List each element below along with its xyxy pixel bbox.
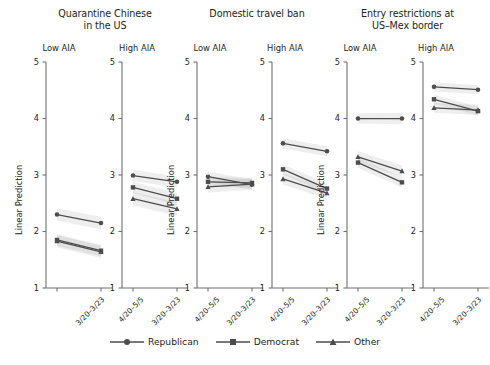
marker-square-icon (356, 160, 360, 164)
marker-square-icon (281, 167, 285, 171)
legend-label-democrat: Democrat (254, 336, 299, 347)
y-tick-label: 5 (101, 57, 115, 67)
marker-circle-icon (281, 141, 286, 146)
y-tick-label: 3 (402, 170, 416, 180)
panel-title-5: High AIA (403, 43, 469, 53)
y-tick-label: 2 (25, 226, 39, 236)
y-tick-label: 5 (176, 57, 190, 67)
y-tick-label: 3 (251, 170, 265, 180)
y-tick-label: 4 (101, 113, 115, 123)
panel-title-0: Low AIA (26, 43, 92, 53)
group-title-line2: US–Mex border (330, 20, 485, 32)
y-tick-label: 5 (326, 57, 340, 67)
y-tick-label: 3 (101, 170, 115, 180)
marker-circle-icon (476, 87, 481, 92)
legend-marker-triangle-icon (316, 337, 350, 347)
legend-item-republican: Republican (110, 336, 199, 347)
y-tick-label: 2 (101, 226, 115, 236)
y-axis-label-0: Linear Prediction (14, 165, 24, 235)
legend-label-other: Other (354, 336, 380, 347)
legend-item-other: Other (316, 336, 380, 347)
group-title-line1: Quarantine Chinese (30, 8, 180, 20)
group-title-domestic: Domestic travel ban (182, 8, 332, 20)
legend-marker-circle-icon (110, 337, 144, 347)
y-tick-label: 2 (176, 226, 190, 236)
y-tick-label: 5 (402, 57, 416, 67)
y-tick-label: 1 (101, 283, 115, 293)
panel-title-2: Low AIA (177, 43, 243, 53)
legend-label-republican: Republican (148, 336, 199, 347)
y-tick-label: 4 (251, 113, 265, 123)
panel-title-4: Low AIA (327, 43, 393, 53)
group-title-line1: Domestic travel ban (182, 8, 332, 20)
y-tick-label: 1 (176, 283, 190, 293)
legend-item-democrat: Democrat (216, 336, 299, 347)
y-tick-label: 3 (326, 170, 340, 180)
group-title-entry: Entry restrictions at US–Mex border (330, 8, 485, 31)
y-tick-label: 2 (326, 226, 340, 236)
marker-circle-icon (432, 85, 437, 90)
group-title-line2: in the US (30, 20, 180, 32)
y-tick-label: 4 (326, 113, 340, 123)
panel-title-3: High AIA (252, 43, 318, 53)
figure-canvas: Quarantine Chinese in the US Domestic tr… (0, 0, 490, 365)
y-tick-label: 3 (176, 170, 190, 180)
y-tick-label: 5 (251, 57, 265, 67)
y-tick-label: 1 (251, 283, 265, 293)
group-title-line1: Entry restrictions at (330, 8, 485, 20)
y-tick-label: 3 (25, 170, 39, 180)
panel-title-1: High AIA (104, 43, 170, 53)
legend: Republican Democrat Other (0, 336, 490, 347)
marker-square-icon (206, 180, 210, 184)
marker-square-icon (432, 97, 436, 101)
y-axis-label-1: Linear Prediction (166, 165, 176, 235)
marker-square-icon (131, 185, 135, 189)
marker-circle-icon (206, 174, 211, 179)
marker-circle-icon (99, 221, 104, 226)
y-tick-label: 4 (176, 113, 190, 123)
y-axis-label-2: Linear Prediction (316, 165, 326, 235)
marker-circle-icon (55, 212, 60, 217)
y-tick-label: 5 (25, 57, 39, 67)
group-title-quarantine: Quarantine Chinese in the US (30, 8, 180, 31)
marker-circle-icon (325, 149, 330, 154)
y-tick-label: 4 (25, 113, 39, 123)
legend-marker-square-icon (216, 337, 250, 347)
y-tick-label: 4 (402, 113, 416, 123)
marker-square-icon (400, 180, 404, 184)
y-tick-label: 2 (402, 226, 416, 236)
y-tick-label: 1 (326, 283, 340, 293)
y-tick-label: 1 (25, 283, 39, 293)
y-tick-label: 2 (251, 226, 265, 236)
marker-circle-icon (131, 173, 136, 178)
marker-circle-icon (356, 116, 361, 121)
y-tick-label: 1 (402, 283, 416, 293)
